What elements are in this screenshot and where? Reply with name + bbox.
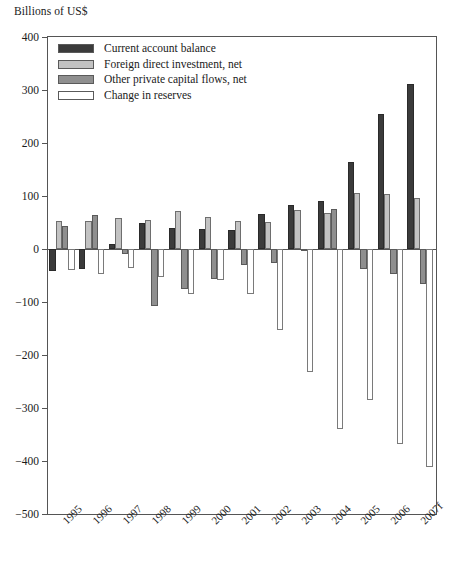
- y-axis-title: Billions of US$: [14, 5, 88, 17]
- y-axis-tick-label: 0: [33, 243, 39, 255]
- bar: [277, 249, 283, 330]
- legend-item-label: Current account balance: [104, 43, 216, 55]
- bar: [294, 210, 300, 249]
- bar: [175, 211, 181, 249]
- bar: [265, 222, 271, 249]
- y-axis-tick-label: −100: [15, 296, 39, 308]
- y-axis-tick-label: −500: [15, 508, 39, 520]
- bar: [331, 209, 337, 249]
- bar: [68, 249, 74, 270]
- bar: [384, 194, 390, 249]
- bar: [354, 193, 360, 249]
- plot-area: 4003002001000−100−200−300−400−500: [47, 36, 437, 515]
- bar-group: [48, 37, 78, 514]
- y-axis-tick-label: −300: [15, 402, 39, 414]
- legend-swatch-icon: [58, 91, 94, 100]
- bar: [115, 218, 121, 249]
- bar: [98, 249, 104, 274]
- bar: [145, 220, 151, 249]
- bar-group: [138, 37, 168, 514]
- legend-item: Current account balance: [58, 41, 308, 57]
- legend-item: Change in reserves: [58, 88, 308, 104]
- bar-group: [406, 37, 436, 514]
- bar-group: [376, 37, 406, 514]
- bar-group: [287, 37, 317, 514]
- bar-group: [257, 37, 287, 514]
- legend-item: Other private capital flows, net: [58, 72, 308, 88]
- y-axis-tick-label: 100: [22, 190, 39, 202]
- y-axis-tick: [42, 514, 48, 515]
- bar: [158, 249, 164, 277]
- legend-item: Foreign direct investment, net: [58, 57, 308, 73]
- legend-swatch-icon: [58, 60, 94, 69]
- bar: [235, 221, 241, 249]
- bar: [205, 217, 211, 249]
- bar-group: [167, 37, 197, 514]
- bar: [128, 249, 134, 268]
- bar-group: [317, 37, 347, 514]
- bar: [426, 249, 432, 467]
- y-axis-tick-label: 400: [22, 31, 39, 43]
- bar: [92, 215, 98, 249]
- chart-figure: Billions of US$ 4003002001000−100−200−30…: [0, 0, 450, 573]
- legend-item-label: Foreign direct investment, net: [104, 59, 242, 71]
- bar-group: [346, 37, 376, 514]
- bar: [337, 249, 343, 429]
- bar: [414, 198, 420, 249]
- bar: [307, 249, 313, 372]
- legend-swatch-icon: [58, 75, 94, 84]
- legend-item-label: Other private capital flows, net: [104, 74, 247, 86]
- bar: [367, 249, 373, 400]
- legend-swatch-icon: [58, 44, 94, 53]
- legend-item-label: Change in reserves: [104, 90, 192, 102]
- y-axis-tick-label: −400: [15, 455, 39, 467]
- bar-group: [227, 37, 257, 514]
- bar: [62, 226, 68, 249]
- bar: [397, 249, 403, 444]
- bar-group: [197, 37, 227, 514]
- bar-group: [78, 37, 108, 514]
- y-axis-tick-label: 200: [22, 137, 39, 149]
- y-axis-tick-label: −200: [15, 349, 39, 361]
- bar: [79, 249, 85, 269]
- bar: [247, 249, 253, 294]
- bar-group: [108, 37, 138, 514]
- y-axis-tick-label: 300: [22, 84, 39, 96]
- bar: [49, 249, 55, 271]
- bar: [217, 249, 223, 280]
- chart-legend: Current account balanceForeign direct in…: [58, 41, 308, 103]
- bar: [188, 249, 194, 294]
